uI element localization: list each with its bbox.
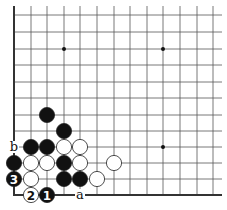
black-stone: [23, 139, 38, 154]
black-stone: [39, 107, 54, 122]
black-stone: [72, 171, 87, 186]
black-stone: [56, 155, 71, 170]
star-point: [62, 47, 66, 51]
move-number-1: 1: [43, 189, 51, 203]
black-stone-icon: [39, 139, 54, 154]
black-stone-icon: [56, 123, 71, 138]
black-stone: [56, 171, 71, 186]
move-number-2: 2: [27, 189, 35, 203]
point-label-a: a: [76, 187, 84, 202]
white-stone-icon: [23, 155, 38, 170]
go-board: 321 ab: [0, 0, 227, 210]
black-stone-icon: [72, 171, 87, 186]
black-stone: [6, 155, 21, 170]
black-stone: [39, 139, 54, 154]
black-stone: 1: [39, 187, 54, 202]
white-stone: [72, 155, 87, 170]
white-stone: [106, 155, 121, 170]
black-stone: [56, 123, 71, 138]
white-stone-icon: [23, 171, 38, 186]
white-stone: [72, 139, 87, 154]
move-number-3: 3: [10, 173, 18, 187]
star-point: [161, 47, 165, 51]
point-label-b: b: [10, 139, 18, 154]
white-stone: [23, 171, 38, 186]
black-stone-icon: [6, 155, 21, 170]
white-stone-icon: [89, 171, 104, 186]
black-stone: 3: [6, 171, 21, 186]
black-stone-icon: [56, 171, 71, 186]
white-stone-icon: [56, 139, 71, 154]
white-stone: [23, 155, 38, 170]
star-point: [161, 145, 165, 149]
white-stone-icon: [106, 155, 121, 170]
white-stone-icon: [72, 139, 87, 154]
white-stone: [39, 155, 54, 170]
white-stone: [56, 139, 71, 154]
white-stone: [89, 171, 104, 186]
black-stone-icon: [39, 107, 54, 122]
black-stone-icon: [56, 155, 71, 170]
white-stone-icon: [72, 155, 87, 170]
white-stone-icon: [39, 155, 54, 170]
black-stone-icon: [23, 139, 38, 154]
white-stone: 2: [23, 187, 38, 202]
